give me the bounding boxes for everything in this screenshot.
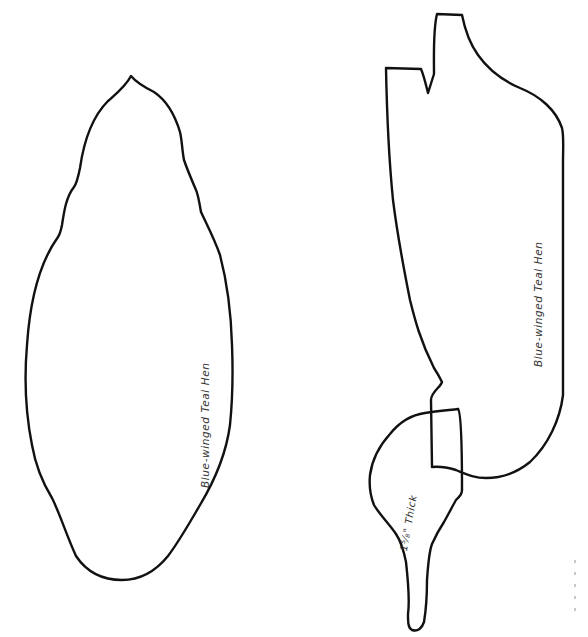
pattern-drawing bbox=[0, 0, 588, 637]
faint-margin-marks bbox=[574, 560, 577, 620]
side-view-head-outline bbox=[370, 409, 462, 631]
pattern-sheet: Blue-winged Teal Hen Blue-winged Teal He… bbox=[0, 0, 588, 637]
top-view-body-outline bbox=[26, 76, 233, 580]
top-view-label: Blue-winged Teal Hen bbox=[199, 362, 211, 488]
head-body-joint-line bbox=[458, 409, 462, 490]
side-view-label: Blue-winged Teal Hen bbox=[532, 241, 544, 367]
